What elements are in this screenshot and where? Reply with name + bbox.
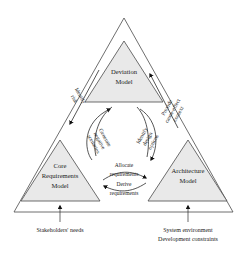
- allocate-requirements-label-line1: Allocate: [115, 162, 134, 168]
- stakeholders-needs-caption: Stakeholders' needs: [36, 227, 84, 233]
- triangle-model-diagram: Deviation Model Core Requirements Model …: [0, 0, 248, 256]
- development-constraints-caption-line2: Development constraints: [158, 236, 218, 242]
- identify-design-options-label-group: Identify design options: [135, 126, 160, 151]
- architecture-model-label-line1: Architecture: [172, 167, 205, 174]
- core-requirements-model-label-line3: Model: [51, 182, 68, 189]
- diagram-canvas: Deviation Model Core Requirements Model …: [0, 0, 248, 256]
- allocate-requirements-label-line2: requirements: [110, 171, 139, 177]
- architecture-model-label-line2: Model: [179, 177, 196, 184]
- core-requirements-model-label-line1: Core: [54, 162, 67, 169]
- core-requirements-model-label-line2: Requirements: [42, 172, 79, 179]
- deviation-model-label-line2: Model: [115, 78, 132, 85]
- identify-risk-label-group: Identify risk: [68, 86, 88, 108]
- derive-requirements-label-line2: requirements: [110, 190, 139, 196]
- deviation-model-label-line1: Deviation: [111, 68, 138, 75]
- generate-negative-scenarios-label-group: Generate negative scenarios: [86, 127, 113, 154]
- core-requirements-model-triangle: [21, 140, 100, 201]
- system-environment-caption-line1: System environment: [163, 227, 213, 233]
- derive-requirements-label-line1: Derive: [117, 181, 133, 187]
